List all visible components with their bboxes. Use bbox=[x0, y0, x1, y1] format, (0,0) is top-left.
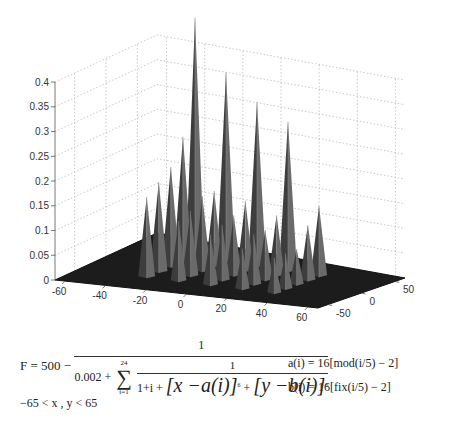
x-tick-label: 60 bbox=[296, 312, 308, 323]
inner-den-plus: + bbox=[241, 381, 251, 395]
outer-numerator: 1 bbox=[74, 338, 328, 357]
z-tick-label: 0.3 bbox=[35, 126, 49, 137]
z-tick-label: 0.05 bbox=[30, 250, 50, 261]
x-tick-label: -60 bbox=[52, 286, 67, 297]
z-tick-label: 0.2 bbox=[35, 176, 49, 187]
y-tick-label: 0 bbox=[370, 296, 376, 307]
formula-lhs: F = 500 − bbox=[20, 358, 71, 373]
y-tick-label: -50 bbox=[336, 308, 351, 319]
z-tick-label: 0.35 bbox=[30, 101, 50, 112]
a-definition: a(i) = 16[mod(i/5) − 2] bbox=[288, 356, 398, 371]
x-tick-label: -20 bbox=[133, 295, 148, 306]
sum-lower: i=1 bbox=[116, 389, 132, 396]
inner-den-term-x: [x −a(i)] bbox=[166, 374, 238, 396]
b-definition: b(i) = 16[fix(i/5) − 2] bbox=[288, 380, 391, 395]
peak bbox=[279, 122, 297, 273]
x-tick-label: 20 bbox=[215, 303, 227, 314]
z-tick-label: 0.25 bbox=[30, 151, 50, 162]
y-tick-label: 50 bbox=[403, 284, 415, 295]
z-tick-label: 0.1 bbox=[35, 225, 49, 236]
sigma-symbol: ∑ bbox=[116, 367, 132, 389]
denominator-constant: 0.002 + bbox=[74, 370, 111, 384]
summation: 24 ∑ i=1 bbox=[116, 360, 132, 396]
objective-formula: F = 500 − 1 0.002 + 24 ∑ i=1 1 1+i + [x … bbox=[20, 338, 328, 397]
x-tick-label: 40 bbox=[256, 308, 268, 319]
inner-den-term-1: 1+i + bbox=[137, 381, 163, 395]
surface-plot: 00.050.10.150.20.250.30.350.4-60-40-2002… bbox=[0, 0, 456, 330]
x-tick-label: 0 bbox=[178, 299, 184, 310]
x-tick-label: -40 bbox=[92, 290, 107, 301]
z-tick-label: 0.4 bbox=[35, 77, 49, 88]
peak bbox=[300, 225, 315, 281]
z-tick-label: 0.15 bbox=[30, 200, 50, 211]
domain-range: −65 < x , y < 65 bbox=[20, 396, 97, 411]
z-tick-label: 0 bbox=[43, 275, 49, 286]
